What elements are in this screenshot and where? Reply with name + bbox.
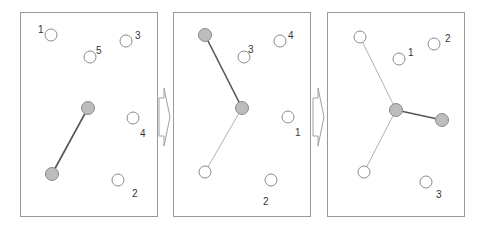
- step-arrow-right-icon: [159, 88, 170, 146]
- node-label: 4: [140, 128, 146, 139]
- tree-node-settled: [354, 31, 366, 43]
- node-label: 5: [96, 45, 102, 56]
- tree-node-new: [46, 168, 59, 181]
- panel-step-1: 1 5 3 4 2: [21, 13, 158, 217]
- tree-node-settled: [199, 166, 211, 178]
- candidate-node-2: [112, 174, 124, 186]
- node-label: 4: [288, 30, 294, 41]
- panel-step-3: 1 2 3: [328, 13, 465, 217]
- candidate-node-3: [420, 176, 432, 188]
- tree-node-new: [436, 114, 449, 127]
- tree-node-new: [199, 29, 212, 42]
- node-label: 3: [436, 189, 442, 200]
- node-label: 2: [445, 33, 451, 44]
- node-label: 3: [135, 30, 141, 41]
- node-label: 2: [263, 196, 269, 207]
- node-label: 1: [408, 47, 414, 58]
- candidate-node-2: [428, 38, 440, 50]
- tree-node-center: [82, 102, 95, 115]
- candidate-node-4: [274, 35, 286, 47]
- tree-node-center: [390, 104, 403, 117]
- candidate-node-5: [84, 51, 96, 63]
- tree-node-center: [236, 102, 249, 115]
- candidate-node-1: [45, 29, 57, 41]
- node-label: 1: [295, 127, 301, 138]
- tree-node-settled: [358, 166, 370, 178]
- candidate-node-2: [265, 174, 277, 186]
- candidate-node-3: [120, 35, 132, 47]
- step-arrow-right-icon: [313, 88, 324, 146]
- candidate-node-1: [282, 111, 294, 123]
- node-label: 2: [132, 188, 138, 199]
- node-label: 1: [38, 24, 44, 35]
- node-label: 3: [248, 44, 254, 55]
- construction-sequence-diagram: 1 5 3 4 2 3 4 1 2 1 2: [0, 0, 485, 228]
- panel-step-2: 3 4 1 2: [174, 13, 311, 217]
- candidate-node-1: [393, 53, 405, 65]
- candidate-node-4: [127, 112, 139, 124]
